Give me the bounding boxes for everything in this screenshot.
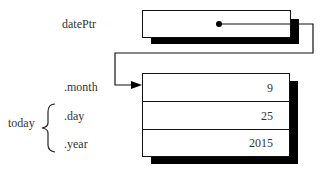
brace-icon [42, 104, 55, 152]
arrowhead-icon [131, 81, 142, 89]
struct-label: today [8, 116, 35, 131]
member-label-day: .day [64, 109, 84, 124]
member-label-year: .year [64, 137, 88, 152]
member-label-month: .month [64, 80, 98, 95]
pointer-arrow [0, 0, 322, 170]
